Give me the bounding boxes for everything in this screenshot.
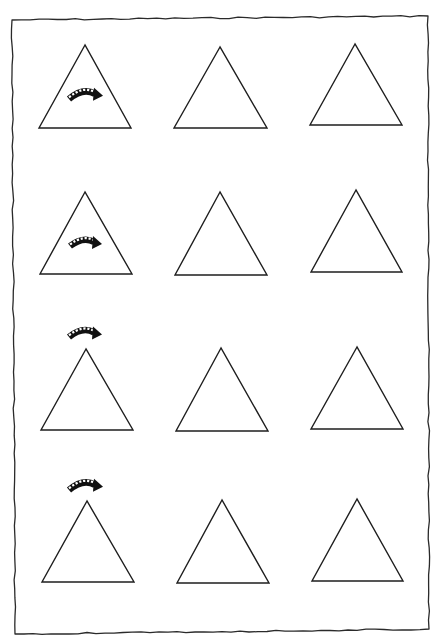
triangle-outline	[310, 44, 402, 125]
worksheet-canvas	[0, 0, 442, 637]
triangle-outline	[42, 501, 134, 582]
tracing-worksheet	[0, 0, 442, 637]
worksheet-row-3	[41, 326, 403, 431]
triangle-outline	[312, 499, 403, 581]
triangle-outline	[40, 192, 132, 274]
curved-dotted-arrow-icon	[70, 236, 102, 249]
worksheet-row-1	[39, 44, 402, 128]
triangle-outline	[175, 192, 267, 275]
curved-dotted-arrow-icon	[69, 479, 103, 492]
triangle-grid	[39, 44, 403, 583]
triangle-outline	[174, 47, 267, 128]
triangle-outline	[311, 190, 402, 272]
hand-drawn-frame	[11, 16, 429, 635]
worksheet-row-4	[42, 479, 403, 583]
triangle-outline	[176, 348, 268, 431]
curved-dotted-arrow-icon	[69, 88, 103, 101]
triangle-outline	[177, 500, 269, 583]
triangle-outline	[41, 349, 133, 430]
frame-border	[11, 16, 429, 635]
triangle-outline	[311, 347, 403, 429]
triangle-outline	[39, 45, 131, 128]
worksheet-row-2	[40, 190, 402, 275]
curved-dotted-arrow-icon	[69, 326, 102, 339]
